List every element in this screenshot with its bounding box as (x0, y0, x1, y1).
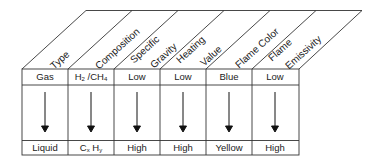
arrow-down-icon (226, 92, 233, 132)
bottom-value-flame-emissivity: High (252, 141, 298, 155)
top-value-heating-value: Low (160, 70, 206, 84)
top-value-specific-gravity: Low (114, 70, 160, 84)
bottom-value-heating-value: High (160, 141, 206, 155)
top-value-flame-color: Blue (206, 70, 252, 84)
bottom-value-specific-gravity: High (114, 141, 160, 155)
bottom-value-flame-color: Yellow (206, 141, 252, 155)
arrow-down-icon (42, 92, 49, 132)
arrow-down-icon (272, 92, 279, 132)
arrow-down-icon (134, 92, 141, 132)
arrow-down-icon (180, 92, 187, 132)
top-value-flame-emissivity: Low (252, 70, 298, 84)
bottom-value-type: Liquid (22, 141, 68, 155)
fuel-property-trend-diagram: Type Composition Specific Gravity Heatin… (0, 0, 380, 162)
arrow-down-icon (88, 92, 95, 132)
top-value-type: Gas (22, 70, 68, 84)
top-value-composition: H2 /CH4 (68, 70, 114, 86)
bottom-value-composition: Cx Hy (68, 141, 114, 157)
